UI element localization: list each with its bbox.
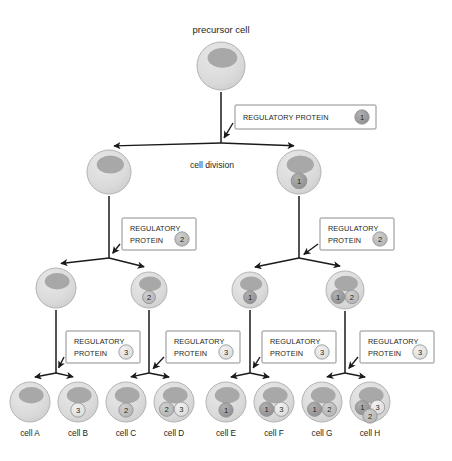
division-arrow <box>61 258 109 263</box>
badge-number: 2 <box>327 405 331 414</box>
cell-label: cell C <box>116 429 137 438</box>
cell-g2-d[interactable]: 12 <box>326 271 364 309</box>
protein-box-label: REGULATORY PROTEIN <box>243 113 329 122</box>
cell-nucleus <box>67 387 92 403</box>
cell-nucleus <box>208 48 238 68</box>
cell-label: cell H <box>360 429 381 438</box>
cell-label: cell A <box>20 429 40 438</box>
cell-protein-badge: 2 <box>345 290 359 304</box>
cell-g2-a[interactable] <box>36 268 76 308</box>
protein-box-label-line1: REGULATORY <box>174 337 225 346</box>
precursor-cell-label: precursor cell <box>192 24 249 35</box>
cell-label: cell D <box>164 429 185 438</box>
division-arrow <box>250 373 269 377</box>
cell-protein-badge: 1 <box>244 291 257 304</box>
badge-number: 2 <box>147 293 151 302</box>
badge-number: 1 <box>265 405 269 414</box>
cell-label: cell F <box>264 429 284 438</box>
division-arrow <box>299 258 340 266</box>
cell-nucleus <box>334 276 358 292</box>
badge-number: 2 <box>165 405 169 414</box>
cell-label: cell B <box>68 429 89 438</box>
cell-g2-b[interactable]: 2 <box>131 272 167 308</box>
protein-badge-number: 3 <box>224 348 228 357</box>
division-arrow <box>221 143 294 146</box>
protein-box-label-line2: PROTEIN <box>328 236 361 245</box>
division-arrow <box>149 373 169 377</box>
cell-nucleus <box>240 277 262 292</box>
cell-g1-right[interactable]: 1 <box>277 150 321 194</box>
protein-box-3-b[interactable]: REGULATORYPROTEIN3 <box>166 331 240 363</box>
cell-nucleus <box>163 387 188 403</box>
cell-protein-badge: 2 <box>119 403 133 417</box>
cell-label: cell E <box>216 429 237 438</box>
protein-badge-number: 3 <box>418 348 422 357</box>
protein-badge-number: 2 <box>378 235 382 244</box>
badge-number: 1 <box>313 405 317 414</box>
cell-protein-badge: 2 <box>363 409 377 423</box>
cell-protein-badge: 1 <box>291 173 307 189</box>
cell-protein-badge: 3 <box>274 402 288 416</box>
cell-cell-h[interactable]: 132 <box>350 382 390 423</box>
cell-protein-badge: 3 <box>174 402 188 416</box>
protein-box-2-left[interactable]: REGULATORYPROTEIN2 <box>122 218 196 250</box>
cell-precursor[interactable] <box>197 42 245 90</box>
badge-number: 3 <box>76 406 80 415</box>
protein-box-2-right[interactable]: REGULATORYPROTEIN2 <box>320 218 394 250</box>
generation-0 <box>197 42 245 90</box>
cell-cell-d[interactable]: 23 <box>154 382 194 422</box>
cell-g1-left[interactable] <box>87 150 131 194</box>
protein-badge-number: 3 <box>124 348 128 357</box>
division-arrow <box>56 373 73 377</box>
cell-label: cell G <box>312 429 333 438</box>
cell-cell-c[interactable]: 2 <box>106 382 146 422</box>
cell-g2-c[interactable]: 1 <box>232 272 268 308</box>
protein-action-arrow <box>153 357 164 369</box>
protein-badge-number: 3 <box>320 348 324 357</box>
badge-number: 3 <box>179 405 183 414</box>
division-arrow <box>327 373 345 377</box>
cell-cell-b[interactable]: 3 <box>58 382 98 422</box>
badge-number: 1 <box>297 177 301 186</box>
protein-action-arrow <box>113 244 120 253</box>
cell-protein-badge: 1 <box>307 402 321 416</box>
protein-action-arrow <box>59 357 64 368</box>
protein-box-label-line2: PROTEIN <box>174 349 207 358</box>
cell-cell-e[interactable]: 1 <box>206 382 246 422</box>
protein-box-label-line1: REGULATORY <box>130 224 181 233</box>
protein-box-label-line1: REGULATORY <box>270 337 321 346</box>
generation-2: 2112 <box>36 268 364 309</box>
cell-cell-f[interactable]: 13 <box>254 382 294 422</box>
badge-number: 1 <box>224 406 228 415</box>
cell-nucleus <box>139 277 161 292</box>
protein-box-3-d[interactable]: REGULATORYPROTEIN3 <box>360 331 434 363</box>
protein-box-label-line2: PROTEIN <box>130 236 163 245</box>
cell-nucleus <box>115 387 140 403</box>
protein-box-label-line1: REGULATORY <box>328 224 379 233</box>
cell-cell-a[interactable] <box>10 382 50 422</box>
cell-nucleus <box>287 156 314 174</box>
cell-nucleus <box>263 387 288 403</box>
cell-protein-badge: 2 <box>159 402 173 416</box>
protein-action-arrow <box>253 357 260 368</box>
division-arrow <box>231 373 250 377</box>
cell-nucleus <box>97 156 124 174</box>
protein-badge-number: 2 <box>180 235 184 244</box>
cell-nucleus <box>19 387 44 403</box>
diagram-canvas: REGULATORY PROTEIN1REGULATORYPROTEIN2REG… <box>0 0 452 461</box>
protein-action-arrow <box>349 357 358 368</box>
division-arrow <box>255 258 299 267</box>
cell-protein-badge: 2 <box>143 291 156 304</box>
protein-box-3-c[interactable]: REGULATORYPROTEIN3 <box>262 331 336 363</box>
badge-number: 2 <box>368 412 372 421</box>
protein-box-1[interactable]: REGULATORY PROTEIN1 <box>235 105 376 129</box>
cell-protein-badge: 1 <box>219 403 233 417</box>
cell-division-label: cell division <box>190 160 234 170</box>
division-arrow <box>345 373 365 377</box>
badge-number: 2 <box>124 406 128 415</box>
protein-box-3-a[interactable]: REGULATORYPROTEIN3 <box>66 331 140 363</box>
protein-box-label-line2: PROTEIN <box>368 349 401 358</box>
cell-cell-g[interactable]: 12 <box>302 382 342 422</box>
generation-3: 322311312132 <box>10 382 390 423</box>
badge-number: 1 <box>248 293 252 302</box>
